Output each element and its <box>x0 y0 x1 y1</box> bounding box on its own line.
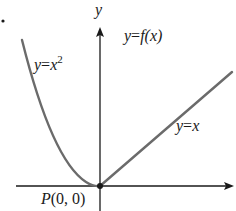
point-label-coords: (0, 0) <box>51 190 86 207</box>
parabola-label-eq: = <box>41 56 50 73</box>
graph-canvas <box>0 0 236 211</box>
function-label-eq: = <box>131 27 140 44</box>
point-p <box>97 183 103 189</box>
parabola-label: y=x2 <box>34 54 63 73</box>
line-label: y=x <box>176 118 199 134</box>
line-curve <box>100 72 232 186</box>
point-label: P(0, 0) <box>41 191 85 207</box>
point-label-name: P <box>41 190 51 207</box>
line-label-rhs: x <box>192 117 199 134</box>
y-axis-label: y <box>95 2 102 18</box>
function-label: y=f(x) <box>124 28 162 44</box>
parabola-label-exp: 2 <box>57 53 63 65</box>
bullet-dot <box>1 19 4 22</box>
line-label-eq: = <box>183 117 192 134</box>
function-label-arg: (x) <box>145 27 163 44</box>
